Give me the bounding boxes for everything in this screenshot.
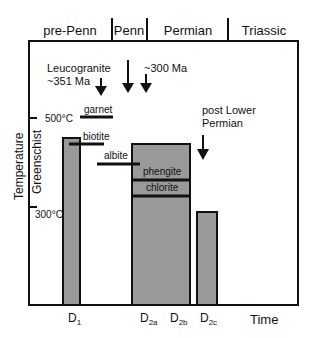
arrow-down-icon: [95, 78, 107, 96]
deformation-box-d1: [63, 138, 80, 305]
mineral-label-albite: albite: [104, 150, 128, 161]
event-label-d2b: D2b: [170, 311, 188, 327]
period-label-pre-penn: pre-Penn: [43, 23, 96, 38]
arrow-down-icon: [197, 135, 209, 160]
tick-label-500: 500°C: [45, 113, 73, 124]
leucogranite-age-label: ~351 Ma: [47, 75, 91, 87]
event-label-d2a: D2a: [140, 311, 158, 327]
temperature-time-diagram: pre-Penn Penn Permian Triassic Leucogran…: [0, 0, 315, 338]
mineral-label-biotite: biotite: [83, 131, 110, 142]
leucogranite-label: Leucogranite: [47, 62, 111, 74]
period-label-triassic: Triassic: [242, 23, 287, 38]
mineral-label-phengite: phengite: [143, 166, 182, 177]
period-label-permian: Permian: [164, 23, 212, 38]
greenschist-label: Greenschist: [30, 129, 44, 194]
post-lower-label: post Lower: [202, 104, 256, 116]
y-axis-title: Temperature: [12, 132, 26, 200]
x-axis-title: Time: [250, 312, 278, 327]
period-label-penn: Penn: [114, 23, 144, 38]
mineral-label-garnet: garnet: [84, 104, 113, 115]
tick-label-300: 300°C: [35, 209, 63, 220]
age-300-label: ~300 Ma: [144, 62, 188, 74]
arrow-down-icon: [140, 74, 152, 93]
post-lower-permian-label: Permian: [202, 117, 243, 129]
event-label-d2c: D2c: [200, 311, 217, 327]
event-label-d1: D1: [68, 311, 82, 327]
mineral-label-chlorite: chlorite: [146, 182, 179, 193]
arrow-down-icon: [122, 60, 134, 93]
deformation-box-d2c: [197, 212, 217, 305]
